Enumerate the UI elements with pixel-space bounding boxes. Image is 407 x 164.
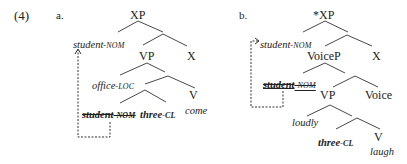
tree-a-spec-student-nom: student-NOM — [73, 35, 125, 51]
tree-a-head-x: X — [187, 50, 196, 62]
tree-a-label: a. — [56, 10, 64, 21]
tree-b-label: b. — [239, 10, 247, 21]
tree-b-voice: Voice — [365, 89, 392, 101]
tree-a-vp: VP — [139, 50, 154, 62]
tree-b-adverb-loudly: loudly — [292, 118, 318, 129]
example-number: (4) — [14, 9, 29, 22]
tree-b-verb-laugh: laugh — [370, 147, 394, 158]
tree-b-head-x: X — [372, 50, 381, 62]
tree-b-root-xp: *XP — [313, 9, 334, 21]
tree-b-spec-student-nom: student-NOM — [260, 35, 312, 51]
tree-b-v: V — [374, 131, 383, 143]
branch-xp-left — [118, 21, 138, 32]
tree-a-low-subject: student-NOM — [82, 105, 136, 121]
movement-arrow-a — [78, 50, 110, 137]
tree-b-quantifier-three-cl: three-CL — [318, 133, 354, 149]
tree-b-vp: VP — [320, 89, 335, 101]
tree-b-voicep: VoiceP — [307, 50, 341, 62]
tree-a-quantifier-three-cl: three-CL — [140, 105, 176, 121]
tree-b-voice-spec-student-nom: student-NOM — [263, 75, 316, 91]
tree-a-v: V — [189, 89, 198, 101]
tree-a-root-xp: XP — [130, 9, 145, 21]
tree-a-verb-come: come — [185, 106, 207, 117]
tree-a-adjunct-office-loc: office-LOC — [92, 76, 134, 92]
